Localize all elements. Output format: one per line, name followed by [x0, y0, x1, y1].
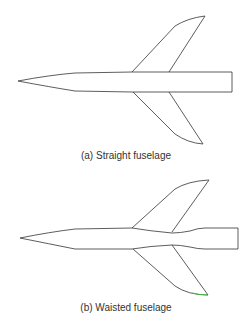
- straight-fuselage-body: [18, 72, 232, 92]
- lower-wing: [133, 92, 203, 144]
- lower-wing: [133, 245, 208, 295]
- upper-wing: [132, 180, 209, 232]
- upper-wing: [132, 16, 205, 72]
- diagram-canvas: [0, 0, 252, 332]
- straight-fuselage-aircraft: [18, 16, 232, 144]
- caption-b: (b) Waisted fuselage: [0, 302, 252, 313]
- waisted-fuselage-aircraft: [20, 180, 238, 295]
- caption-a: (a) Straight fuselage: [0, 150, 252, 161]
- waisted-fuselage-body: [20, 228, 238, 249]
